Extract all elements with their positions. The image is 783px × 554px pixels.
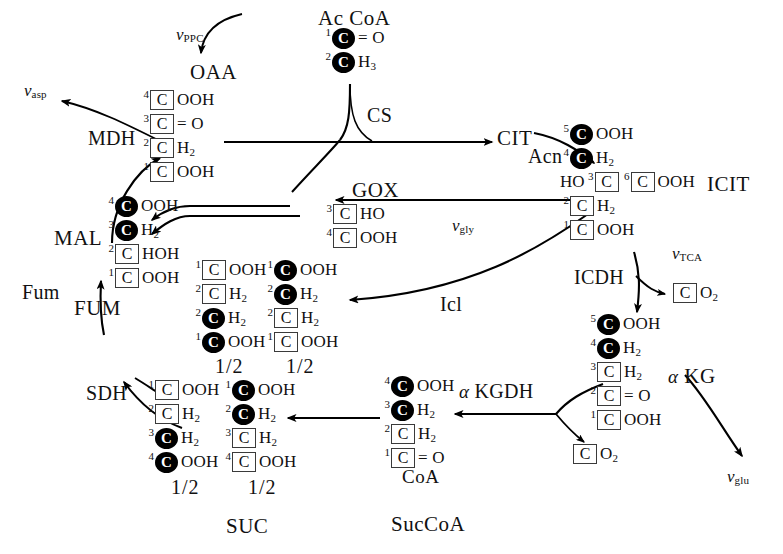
carbon-row: 3C= O (140, 112, 214, 136)
carbon-tail: H2 (229, 284, 247, 304)
flux-vglu: vglu (727, 468, 749, 486)
molecule-co2-icdh: C O2 (673, 283, 718, 303)
carbon-row: 4COOH (323, 226, 397, 250)
metabolite-fum: FUM (74, 298, 121, 319)
carbon-index: 4 (105, 195, 114, 206)
carbon-row: 4CH2 (587, 336, 661, 360)
carbon-index: 1 (145, 379, 154, 390)
carbon-row: 2CH2 (381, 422, 454, 446)
stoich-half-mal-b: 1/2 (286, 356, 315, 376)
carbon-open-box: C (155, 404, 179, 424)
carbon-row: 1COOH (222, 378, 296, 402)
metabolite-mal: MAL (54, 228, 102, 249)
carbon-index: 1 (264, 259, 273, 270)
metabolite-succoa: SucCoA (391, 514, 465, 535)
molecule-suc-isotopomer-a: 1COOH2CH23CH24COOH (145, 378, 219, 474)
carbon-row: 1COOH (264, 330, 338, 354)
carbon-index: 1 (192, 331, 201, 342)
carbon-labeled-filled: C (570, 124, 593, 145)
carbon-row: 1COOH (192, 258, 266, 282)
carbon-tail: OOH (301, 332, 338, 352)
carbon-tail: H2 (596, 148, 614, 168)
carbon-open-box: C (597, 410, 621, 430)
flux-vtca: vTCA (672, 245, 702, 263)
carbon-open-box: C (333, 204, 357, 224)
carbon-labeled-filled: C (391, 376, 414, 397)
carbon-row: 1C= O (381, 446, 454, 470)
molecule-oaa: 4COOH3C= O2CH21COOH (140, 88, 214, 184)
carbon-tail: H2 (259, 428, 277, 448)
carbon-index: 5 (560, 123, 569, 134)
carbon-open-box: C (274, 332, 298, 352)
carbon-index: 4 (560, 147, 569, 158)
diagram-canvas: vPPC vasp vgly vTCA vglu OAA Ac CoA CIT … (0, 0, 783, 554)
carbon-labeled-filled: C (155, 452, 178, 473)
molecule-succoa: 4COOH3CH22CH21C= O (381, 374, 454, 470)
carbon-labeled-filled: C (115, 196, 138, 217)
co2-tail: O2 (600, 444, 618, 464)
carbon-row: 3CH2 (145, 426, 219, 450)
carbon-tail: H2 (177, 138, 195, 158)
carbon-open-box: C (573, 444, 597, 464)
metabolite-suc: SUC (226, 516, 268, 537)
enzyme-mdh: MDH (88, 128, 136, 148)
molecule-icit: 5COOH4CH2HO3C6COOH2CH21COOH (560, 122, 695, 242)
carbon-index: 2 (192, 283, 201, 294)
carbon-tail: HOH (142, 244, 179, 264)
carbon-labeled-filled: C (232, 380, 255, 401)
carbon-open-box: C (150, 138, 174, 158)
carbon-tail: OOH (596, 124, 633, 144)
carbon-index: 3 (323, 203, 332, 214)
carbon-open-box: C (115, 244, 139, 264)
carbon-tail: H2 (623, 338, 641, 358)
carbon-row: 5COOH (560, 122, 695, 146)
molecule-mal: 4COOH3CH22CHOH1COOH (105, 194, 179, 290)
carbon-index: 4 (145, 451, 154, 462)
carbon-row: 4CH2 (560, 146, 695, 170)
carbon-open-box: C (570, 220, 594, 240)
carbon-open-box: C (274, 308, 298, 328)
carbon-open-box: C (115, 268, 139, 288)
carbon-index: 1 (105, 267, 114, 278)
carbon-open-box: C (631, 172, 655, 192)
molecule-akg: 5COOH4CH23CH22C= O1COOH (587, 312, 661, 432)
carbon-tail: H2 (418, 424, 436, 444)
carbon-open-box: C (232, 452, 256, 472)
carbon-index: 1 (560, 219, 569, 230)
carbon-tail: OOH (177, 162, 214, 182)
carbon-open-box: C (150, 90, 174, 110)
carbon-row: HO3C6COOH (560, 170, 695, 194)
carbon-tail: H2 (182, 404, 200, 424)
carbon-labeled-filled: C (202, 332, 225, 353)
carbon-index: 4 (381, 375, 390, 386)
carbon-tail: = O (624, 386, 651, 406)
carbon-tail: OOH (300, 260, 337, 280)
carbon-index: 2 (587, 385, 596, 396)
carbon-labeled-filled: C (155, 428, 178, 449)
carbon-row: 1C= O (322, 26, 385, 50)
carbon-index: 2 (264, 307, 273, 318)
carbon-row: 2CH2 (140, 136, 214, 160)
stoich-half-suc-b: 1/2 (248, 477, 277, 497)
enzyme-acn: Acn (528, 146, 562, 166)
carbon-index: 1 (140, 161, 149, 172)
carbon-row: 3CHO (323, 202, 397, 226)
enzyme-cs: CS (367, 105, 392, 125)
carbon-open-box: C (391, 448, 415, 468)
carbon-prefix: HO (560, 172, 585, 192)
carbon-row: 2CH2 (145, 402, 219, 426)
molecule-ac-coa: 1C= O2CH3 (322, 26, 385, 74)
carbon-row: 3CH2 (381, 398, 454, 422)
carbon-index: 6 (621, 171, 630, 182)
carbon-tail: OOH (142, 268, 179, 288)
carbon-labeled-filled: C (597, 314, 620, 335)
carbon-index: 2 (192, 307, 201, 318)
carbon-index: 2 (140, 137, 149, 148)
carbon-tail: OOH (177, 90, 214, 110)
carbon-tail: OOH (258, 380, 295, 400)
carbon-row: 1COOH (105, 266, 179, 290)
metabolite-icit: ICIT (707, 174, 750, 195)
carbon-tail: HO (360, 204, 385, 224)
carbon-row: 2CH2 (264, 306, 338, 330)
carbon-index: 3 (105, 219, 114, 230)
